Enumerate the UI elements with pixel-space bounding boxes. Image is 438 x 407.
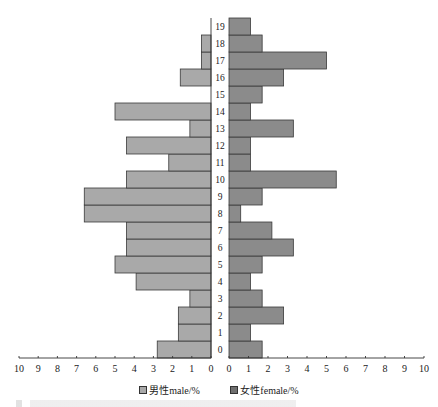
female-bar-16 xyxy=(229,69,284,86)
female-bar-15 xyxy=(229,86,262,103)
female-bar-7 xyxy=(229,222,272,239)
left-tick-label: 3 xyxy=(151,363,156,374)
female-bar-18 xyxy=(229,35,262,52)
female-bar-19 xyxy=(229,18,250,35)
female-bar-5 xyxy=(229,256,262,273)
male-bar-18 xyxy=(201,35,211,52)
left-tick-label: 7 xyxy=(74,363,79,374)
left-tick-label: 6 xyxy=(93,363,98,374)
right-tick-label: 3 xyxy=(285,363,290,374)
male-bar-10 xyxy=(127,171,211,188)
male-bar-14 xyxy=(115,103,211,120)
female-swatch-icon xyxy=(230,386,238,394)
male-bar-1 xyxy=(178,324,211,341)
row-label-11: 11 xyxy=(215,158,224,168)
left-tick-label: 1 xyxy=(189,363,194,374)
male-bars xyxy=(84,35,211,358)
female-bar-14 xyxy=(229,103,250,120)
row-label-1: 1 xyxy=(218,328,223,338)
male-bar-4 xyxy=(136,273,211,290)
row-label-8: 8 xyxy=(218,209,223,219)
right-tick-label: 2 xyxy=(266,363,271,374)
female-bar-3 xyxy=(229,290,262,307)
right-tick-label: 8 xyxy=(383,363,388,374)
left-tick-label: 2 xyxy=(170,363,175,374)
legend-male-label: 男性male/% xyxy=(149,382,200,397)
row-label-18: 18 xyxy=(215,39,225,49)
row-label-14: 14 xyxy=(215,107,225,117)
population-pyramid-chart: 012345678910111213141516171819 109876543… xyxy=(0,0,438,407)
male-bar-6 xyxy=(127,239,211,256)
female-bar-13 xyxy=(229,120,293,137)
right-tick-label: 4 xyxy=(305,363,310,374)
left-tick-label: 5 xyxy=(113,363,118,374)
male-swatch-icon xyxy=(139,386,147,394)
male-bar-7 xyxy=(127,222,211,239)
row-label-10: 10 xyxy=(215,175,225,185)
male-bar-5 xyxy=(115,256,211,273)
female-bar-2 xyxy=(229,307,284,324)
left-tick-label: 8 xyxy=(55,363,60,374)
row-label-16: 16 xyxy=(215,73,225,83)
female-bar-17 xyxy=(229,52,327,69)
male-bar-13 xyxy=(190,120,211,137)
male-bar-12 xyxy=(127,137,211,154)
male-bar-17 xyxy=(201,52,211,69)
left-tick-label: 9 xyxy=(36,363,41,374)
row-label-5: 5 xyxy=(218,260,223,270)
legend: 男性male/% 女性female/% xyxy=(0,382,438,397)
right-tick-label: 9 xyxy=(402,363,407,374)
left-axis-ticks: 109876543210 xyxy=(14,356,214,374)
male-bar-0 xyxy=(157,341,211,358)
row-label-3: 3 xyxy=(218,294,223,304)
female-bar-9 xyxy=(229,188,262,205)
row-label-13: 13 xyxy=(215,124,225,134)
row-label-4: 4 xyxy=(218,277,223,287)
figure-caption-cropped xyxy=(16,400,296,407)
female-bar-11 xyxy=(229,154,250,171)
row-label-7: 7 xyxy=(218,226,223,236)
female-bar-0 xyxy=(229,341,262,358)
female-bar-4 xyxy=(229,273,250,290)
right-tick-label: 6 xyxy=(344,363,349,374)
female-bar-12 xyxy=(229,137,250,154)
male-bar-16 xyxy=(180,69,211,86)
legend-item-female: 女性female/% xyxy=(230,382,298,397)
male-bar-8 xyxy=(84,205,211,222)
legend-item-male: 男性male/% xyxy=(139,382,200,397)
row-label-15: 15 xyxy=(215,90,225,100)
female-bar-8 xyxy=(229,205,241,222)
female-bar-1 xyxy=(229,324,250,341)
male-bar-3 xyxy=(190,290,211,307)
female-bar-10 xyxy=(229,171,336,188)
male-bar-11 xyxy=(169,154,211,171)
row-label-9: 9 xyxy=(218,192,223,202)
male-bar-9 xyxy=(84,188,211,205)
row-label-6: 6 xyxy=(218,243,223,253)
row-label-2: 2 xyxy=(218,311,223,321)
left-tick-label: 0 xyxy=(209,363,214,374)
legend-female-label: 女性female/% xyxy=(240,382,298,397)
left-tick-label: 10 xyxy=(14,363,24,374)
female-bar-6 xyxy=(229,239,293,256)
right-tick-label: 1 xyxy=(246,363,251,374)
right-tick-label: 10 xyxy=(419,363,429,374)
row-label-17: 17 xyxy=(215,56,225,66)
row-label-19: 19 xyxy=(215,22,225,32)
right-tick-label: 0 xyxy=(227,363,232,374)
row-label-0: 0 xyxy=(218,345,223,355)
row-label-12: 12 xyxy=(215,141,225,151)
female-bars xyxy=(229,18,336,358)
age-row-labels: 012345678910111213141516171819 xyxy=(215,22,225,355)
right-tick-label: 5 xyxy=(324,363,329,374)
male-bar-2 xyxy=(178,307,211,324)
left-tick-label: 4 xyxy=(132,363,137,374)
right-axis-ticks: 012345678910 xyxy=(227,356,430,374)
right-tick-label: 7 xyxy=(363,363,368,374)
